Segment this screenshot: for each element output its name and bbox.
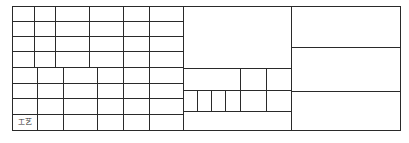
col-line — [37, 67, 38, 130]
row-line — [183, 90, 291, 91]
col-line — [149, 6, 150, 130]
col-line — [225, 90, 226, 111]
col-line — [123, 6, 124, 130]
col-line — [266, 68, 267, 111]
row-line — [183, 111, 291, 112]
row-line — [291, 47, 400, 48]
col-line — [240, 68, 241, 111]
row-line — [183, 68, 291, 69]
border-right — [400, 6, 401, 131]
title-block: 工艺 — [0, 0, 409, 143]
border-bottom — [12, 130, 401, 131]
col-line — [89, 6, 90, 67]
col-line — [97, 67, 98, 130]
row-line — [291, 91, 400, 92]
col-line — [291, 6, 292, 130]
row-line — [12, 21, 183, 22]
col-line — [63, 67, 64, 130]
col-line — [55, 6, 56, 67]
col-line — [211, 90, 212, 111]
border-top — [12, 6, 401, 7]
row-line — [12, 51, 183, 52]
col-line — [197, 90, 198, 111]
row-line — [12, 36, 183, 37]
col-line — [34, 6, 35, 67]
process-label: 工艺 — [18, 119, 32, 126]
